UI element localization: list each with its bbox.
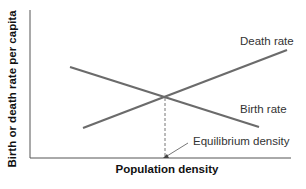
equilibrium-marker-icon	[163, 154, 169, 158]
death-rate-line	[83, 50, 287, 128]
equilibrium-pointer-line	[167, 143, 188, 156]
x-axis-label: Population density	[112, 163, 222, 175]
birth-rate-label: Birth rate	[240, 103, 287, 115]
diagram-canvas	[0, 0, 306, 189]
death-rate-label: Death rate	[240, 35, 294, 47]
y-axis-label: Birth or death rate per capita	[6, 9, 20, 169]
equilibrium-density-label: Equilibrium density	[193, 135, 290, 147]
